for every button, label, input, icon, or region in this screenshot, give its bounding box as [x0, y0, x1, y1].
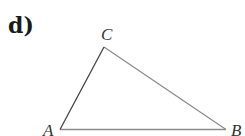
vertex-label-b: B [231, 121, 242, 136]
edge-ac [60, 47, 104, 130]
triangle-diagram: C A B [0, 0, 245, 136]
edge-bc [104, 47, 226, 130]
vertex-label-a: A [42, 121, 54, 136]
vertex-label-c: C [101, 25, 113, 44]
